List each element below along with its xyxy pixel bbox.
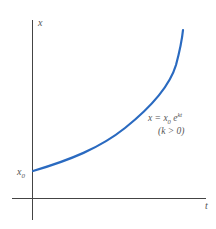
exponential-growth-chart: x t x0 x = x0 ekt (k > 0) [0,0,216,229]
x-axis-label: t [205,200,208,211]
condition-label: (k > 0) [158,126,184,137]
y-axis-label: x [37,17,43,28]
equation-label: x = x0 ekt [147,111,182,125]
x0-label: x0 [16,166,25,180]
exponential-curve [33,30,183,171]
